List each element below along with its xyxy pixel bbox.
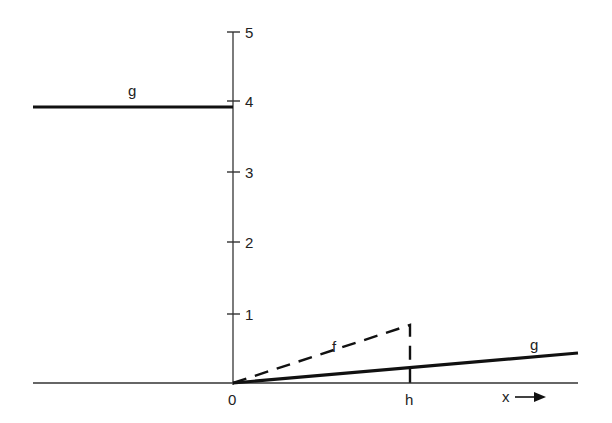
label-g-left: g — [128, 82, 136, 99]
label-f: f — [332, 338, 337, 355]
label-g-right: g — [530, 336, 538, 353]
y-tick-label-5: 5 — [245, 24, 253, 41]
curve-g-right — [233, 353, 578, 383]
x-axis-label: x — [502, 388, 510, 405]
y-tick-label-2: 2 — [245, 234, 253, 251]
y-tick-label-3: 3 — [245, 164, 253, 181]
function-diagram: 5 4 3 2 1 g f g 0 h x — [0, 0, 612, 423]
x-tick-label-h: h — [405, 391, 413, 408]
arrow-right-icon — [515, 392, 546, 402]
x-tick-label-0: 0 — [228, 391, 236, 408]
y-tick-label-4: 4 — [245, 93, 253, 110]
y-tick-label-1: 1 — [245, 306, 253, 323]
